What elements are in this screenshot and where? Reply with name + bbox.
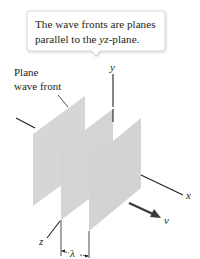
plane-wave-diagram: The wave fronts are planes parallel to t… [0,0,200,259]
callout-line-1: The wave fronts are planes [35,18,156,30]
wave-front-label-line-1: Plane [14,66,39,78]
velocity-label: v [164,214,169,226]
z-axis [47,221,60,238]
wavelength-label: λ [69,247,75,259]
x-axis-label: x [185,189,191,201]
wave-front-label-line-2: wave front [14,80,61,92]
wavelength-dimension [61,220,89,258]
leader-line [58,95,68,107]
velocity-arrow [129,203,161,218]
callout-bubble: The wave fronts are planes parallel to t… [27,11,165,56]
x-axis [141,175,183,195]
z-axis-label: z [38,235,44,247]
callout-line-2: parallel to the yz-plane. [35,33,140,45]
y-axis-label: y [109,61,115,73]
x-axis-back [16,118,35,128]
